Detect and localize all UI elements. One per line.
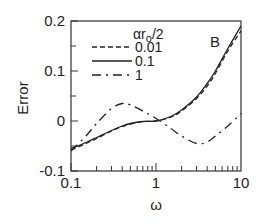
x-axis-tick-labels: 0.1110 bbox=[61, 174, 250, 191]
legend: αro/2 0.010.11 bbox=[92, 26, 164, 83]
series-line-1 bbox=[71, 103, 241, 151]
x-tick-label: 0.1 bbox=[61, 174, 82, 191]
chart: -0.100.10.2 0.1110 Error ω B αro/2 0.010… bbox=[0, 0, 261, 224]
y-tick-label: 0.1 bbox=[44, 62, 65, 79]
legend-label: 1 bbox=[135, 67, 143, 83]
x-tick-label: 10 bbox=[233, 174, 250, 191]
y-tick-label: 0.2 bbox=[44, 12, 65, 29]
x-axis-ticks bbox=[71, 163, 237, 171]
y-axis-tick-labels: -0.100.10.2 bbox=[39, 12, 65, 179]
y-tick-label: 0 bbox=[57, 112, 65, 129]
panel-label: B bbox=[210, 33, 220, 50]
y-axis-title: Error bbox=[14, 81, 31, 114]
x-tick-label: 1 bbox=[152, 174, 160, 191]
x-axis-title: ω bbox=[150, 196, 162, 213]
